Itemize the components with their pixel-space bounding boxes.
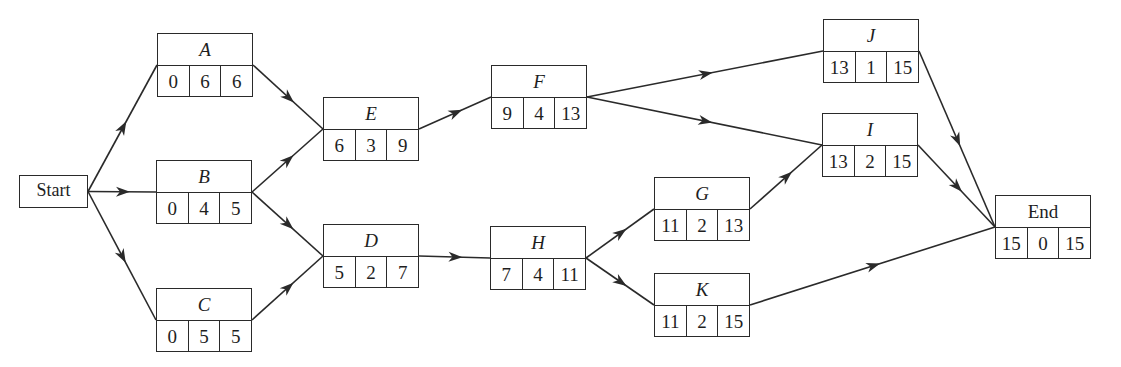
- earliest-start: 7: [491, 259, 523, 290]
- duration: 6: [190, 66, 222, 97]
- activity-times: 13 2 15: [823, 146, 917, 177]
- activity-label: End: [996, 196, 1090, 228]
- earliest-start: 11: [655, 306, 687, 337]
- activity-node-end: End 15 0 15: [995, 195, 1091, 259]
- start-label: Start: [37, 180, 71, 200]
- activity-label: K: [655, 274, 749, 306]
- arrowhead-icon: [865, 259, 881, 273]
- duration: 3: [356, 130, 388, 161]
- arrowhead-icon: [698, 68, 714, 80]
- duration: 4: [523, 259, 555, 290]
- activity-label: H: [491, 227, 585, 259]
- activity-label: I: [823, 114, 917, 146]
- arrowhead-icon: [115, 248, 130, 265]
- activity-node-d: D 5 2 7: [323, 224, 419, 288]
- arrowhead-icon: [115, 119, 130, 136]
- earliest-start: 13: [823, 146, 855, 177]
- activity-label: B: [157, 161, 251, 193]
- activity-node-e: E 6 3 9: [323, 97, 419, 161]
- duration: 2: [855, 146, 887, 177]
- earliest-start: 15: [996, 228, 1028, 259]
- activity-times: 6 3 9: [324, 130, 418, 161]
- activity-times: 0 5 5: [157, 321, 251, 352]
- arrowhead-icon: [698, 115, 714, 128]
- earliest-finish: 13: [718, 210, 749, 241]
- activity-node-f: F 9 4 13: [491, 65, 587, 129]
- earliest-finish: 15: [886, 146, 917, 177]
- activity-node-c: C 0 5 5: [156, 288, 252, 352]
- activity-node-k: K 11 2 15: [654, 273, 750, 337]
- start-node: Start: [19, 175, 88, 208]
- activity-label: F: [492, 66, 586, 98]
- activity-label: E: [324, 98, 418, 130]
- activity-node-j: J 13 1 15: [823, 19, 919, 83]
- activity-label: A: [158, 34, 252, 66]
- earliest-start: 11: [655, 210, 687, 241]
- arrowhead-icon: [447, 105, 464, 120]
- duration: 2: [687, 306, 719, 337]
- earliest-finish: 9: [387, 130, 418, 161]
- activity-times: 11 2 13: [655, 210, 749, 241]
- earliest-start: 0: [158, 66, 190, 97]
- activity-times: 5 2 7: [324, 257, 418, 288]
- activity-times: 13 1 15: [824, 52, 918, 83]
- earliest-finish: 5: [220, 321, 251, 352]
- earliest-finish: 11: [554, 259, 585, 290]
- activity-label: D: [324, 225, 418, 257]
- earliest-finish: 15: [1059, 228, 1090, 259]
- earliest-finish: 15: [718, 306, 749, 337]
- arrowhead-icon: [612, 274, 629, 290]
- activity-node-a: A 0 6 6: [157, 33, 253, 97]
- earliest-finish: 13: [555, 98, 586, 129]
- activity-times: 9 4 13: [492, 98, 586, 129]
- duration: 1: [856, 52, 888, 83]
- activity-times: 0 4 5: [157, 193, 251, 224]
- earliest-start: 0: [157, 193, 189, 224]
- activity-label: C: [157, 289, 251, 321]
- activity-times: 0 6 6: [158, 66, 252, 97]
- activity-node-h: H 7 4 11: [490, 226, 586, 290]
- arrowhead-icon: [612, 225, 629, 241]
- arrowhead-icon: [950, 132, 965, 149]
- earliest-start: 0: [157, 321, 189, 352]
- earliest-finish: 15: [887, 52, 918, 83]
- earliest-start: 9: [492, 98, 524, 129]
- activity-label: G: [655, 178, 749, 210]
- activity-times: 7 4 11: [491, 259, 585, 290]
- earliest-finish: 7: [387, 257, 418, 288]
- activity-times: 11 2 15: [655, 306, 749, 337]
- duration: 2: [687, 210, 719, 241]
- duration: 4: [189, 193, 221, 224]
- duration: 2: [356, 257, 388, 288]
- activity-times: 15 0 15: [996, 228, 1090, 259]
- earliest-start: 6: [324, 130, 356, 161]
- activity-node-i: I 13 2 15: [822, 113, 918, 177]
- activity-node-b: B 0 4 5: [156, 160, 252, 224]
- earliest-finish: 5: [220, 193, 251, 224]
- earliest-start: 5: [324, 257, 356, 288]
- earliest-finish: 6: [221, 66, 252, 97]
- duration: 4: [524, 98, 556, 129]
- activity-label: J: [824, 20, 918, 52]
- earliest-start: 13: [824, 52, 856, 83]
- duration: 5: [189, 321, 221, 352]
- activity-node-g: G 11 2 13: [654, 177, 750, 241]
- duration: 0: [1028, 228, 1060, 259]
